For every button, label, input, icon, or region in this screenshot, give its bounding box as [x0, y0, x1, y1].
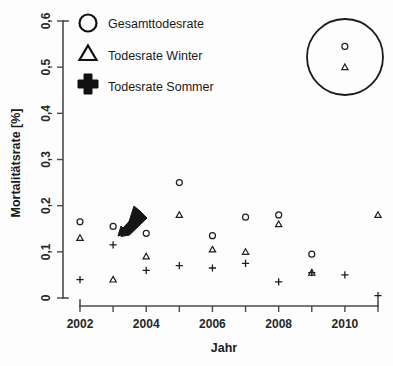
y-tick-label: 0 — [39, 294, 53, 301]
data-point-triangle — [143, 253, 149, 259]
legend-plus-icon — [78, 74, 98, 94]
y-tick-label: 0,1 — [39, 243, 53, 260]
arrow-annotation — [118, 206, 147, 237]
y-tick-label: 0,6 — [39, 12, 53, 29]
data-point-plus — [209, 264, 216, 271]
data-point-plus — [143, 267, 150, 274]
x-axis-ticks: 20022004200620082010 — [67, 306, 378, 331]
data-point-circle — [243, 214, 249, 220]
data-point-triangle — [342, 64, 348, 70]
legend-label-todesrate-sommer: Todesrate Sommer — [108, 80, 214, 94]
x-tick-label: 2004 — [133, 317, 160, 331]
data-point-plus — [275, 278, 282, 285]
data-point-triangle — [242, 249, 248, 255]
data-point-plus — [374, 292, 381, 299]
data-point-circle — [176, 180, 182, 186]
y-tick-label: 0,3 — [39, 151, 53, 168]
data-point-triangle — [110, 276, 116, 282]
data-point-plus — [110, 241, 117, 248]
legend: Gesamttodesrate Todesrate Winter Todesra… — [78, 15, 214, 95]
y-tick-label: 0,4 — [39, 105, 53, 122]
data-point-circle — [143, 230, 149, 236]
data-point-triangle — [276, 221, 282, 227]
y-tick-label: 0,5 — [39, 59, 53, 76]
data-point-plus — [76, 276, 83, 283]
data-point-plus — [341, 271, 348, 278]
data-point-triangle — [176, 212, 182, 218]
y-tick-label: 0,2 — [39, 197, 53, 214]
data-point-circle — [110, 223, 116, 229]
data-point-triangle — [209, 246, 215, 252]
x-tick-label: 2002 — [67, 317, 94, 331]
x-tick-label: 2006 — [199, 317, 226, 331]
highlight-circle-annotation — [307, 19, 383, 95]
y-axis-title: Mortalitätsrate [%] — [9, 108, 23, 217]
x-tick-label: 2008 — [265, 317, 292, 331]
data-point-circle — [276, 212, 282, 218]
data-point-triangle — [375, 212, 381, 218]
legend-label-gesamttodesrate: Gesamttodesrate — [108, 17, 204, 31]
chart-figure: 00,10,20,30,40,50,6 20022004200620082010… — [0, 0, 393, 366]
y-axis-ticks: 00,10,20,30,40,50,6 — [39, 12, 63, 301]
data-point-plus — [176, 262, 183, 269]
legend-triangle-icon — [80, 46, 97, 61]
data-point-circle — [77, 219, 83, 225]
scatter-plot: 00,10,20,30,40,50,6 20022004200620082010… — [0, 0, 393, 366]
data-point-circle — [342, 43, 348, 49]
data-point-plus — [242, 260, 249, 267]
legend-label-todesrate-winter: Todesrate Winter — [108, 49, 202, 63]
legend-circle-icon — [80, 15, 97, 32]
data-point-circle — [209, 233, 215, 239]
x-axis-title: Jahr — [211, 341, 238, 355]
data-point-triangle — [77, 235, 83, 241]
x-tick-label: 2010 — [332, 317, 359, 331]
data-point-circle — [309, 251, 315, 257]
